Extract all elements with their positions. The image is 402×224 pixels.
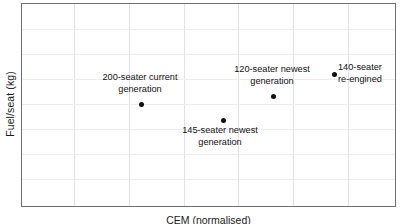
y-axis-title: Fuel/seat (kg)	[0, 0, 20, 207]
gridline-horizontal	[22, 104, 395, 105]
data-point-label: 120-seater newest generation	[220, 64, 324, 87]
x-axis-title: CEM (normalised)	[21, 214, 396, 224]
x-axis-title-label: CEM (normalised)	[166, 214, 251, 224]
plot-area	[21, 3, 396, 207]
data-point-marker	[221, 118, 226, 123]
gridline-horizontal	[22, 154, 395, 155]
data-point-marker	[332, 72, 337, 77]
scatter-chart-figure: Fuel/seat (kg) 200-seater current genera…	[0, 0, 402, 224]
gridline-vertical	[184, 4, 185, 206]
gridline-vertical	[293, 4, 294, 206]
gridline-horizontal	[22, 29, 395, 30]
gridline-vertical	[348, 4, 349, 206]
data-point-label: 140-seater re-engined	[338, 62, 396, 85]
gridline-horizontal	[22, 179, 395, 180]
gridline-vertical	[129, 4, 130, 206]
gridline-horizontal	[22, 54, 395, 55]
data-point-marker	[139, 102, 144, 107]
y-axis-title-label: Fuel/seat (kg)	[4, 71, 16, 137]
gridline-vertical	[74, 4, 75, 206]
data-point-marker	[271, 94, 276, 99]
gridline-vertical	[238, 4, 239, 206]
data-point-label: 145-seater newest generation	[168, 125, 272, 148]
data-point-label: 200-seater current generation	[88, 72, 192, 95]
